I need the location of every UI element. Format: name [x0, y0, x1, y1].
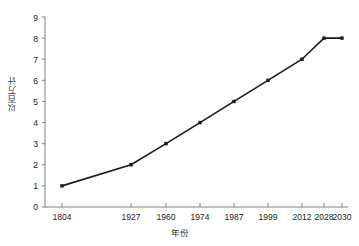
line-chart: 以百万计 9 8 7 6 5 4 3 2 1 0 1804 1927 1960 …: [0, 0, 359, 246]
data-point-marker: [129, 163, 132, 166]
data-series-line: [62, 38, 342, 186]
data-point-marker: [266, 79, 269, 82]
data-point-marker: [164, 142, 167, 145]
plot-area: [0, 0, 359, 246]
data-point-marker: [198, 121, 201, 124]
axis-lines: [45, 17, 348, 207]
data-point-marker: [232, 100, 235, 103]
data-point-markers: [60, 36, 343, 187]
data-point-marker: [322, 36, 325, 39]
data-point-marker: [60, 184, 63, 187]
x-tick-marks: [62, 203, 342, 207]
data-point-marker: [300, 58, 303, 61]
data-point-marker: [340, 36, 343, 39]
